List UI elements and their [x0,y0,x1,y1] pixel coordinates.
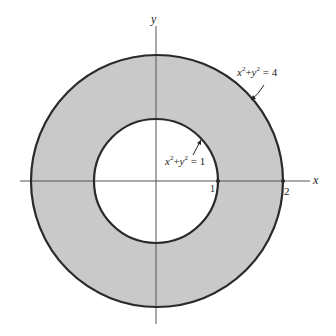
x-axis-label: x [313,173,318,188]
eq-rhs: = 1 [191,155,205,167]
annulus-diagram [0,0,336,336]
y-axis-label: y [151,12,156,27]
tick-label-2: 2 [284,185,290,197]
eq-rhs: = 4 [263,66,277,78]
tick-label-1: 1 [210,183,215,194]
eq-exp: 2 [257,65,261,73]
inner-circle-equation: x2+y2 = 1 [165,155,205,167]
point-2 [281,179,285,183]
outer-circle-equation: x2+y2 = 4 [237,66,277,78]
point-1 [216,179,220,183]
eq-exp: 2 [185,154,189,162]
